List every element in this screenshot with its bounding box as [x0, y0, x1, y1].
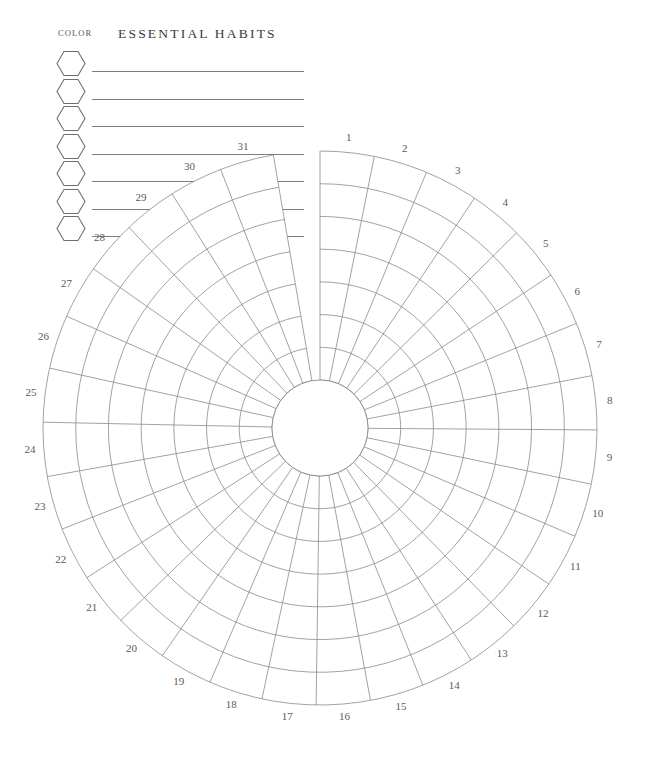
- day-number-label: 19: [173, 675, 185, 687]
- habit-tracker-page: COLOR ESSENTIAL HABITS 12345678910111213…: [0, 0, 646, 774]
- day-number-label: 28: [94, 231, 106, 243]
- chart-cell[interactable]: [76, 423, 112, 471]
- day-number-label: 14: [449, 679, 461, 691]
- chart-cell[interactable]: [76, 375, 114, 423]
- day-number-label: 8: [607, 394, 613, 406]
- day-number-label: 3: [455, 164, 461, 176]
- day-number-label: 9: [607, 451, 613, 463]
- day-number-label: 16: [339, 710, 351, 722]
- chart-cell[interactable]: [317, 604, 359, 640]
- radial-chart-svg: 1234567891011121314151617181920212223242…: [0, 0, 646, 774]
- chart-cell[interactable]: [560, 376, 597, 430]
- chart-cell[interactable]: [141, 424, 176, 459]
- chart-cell[interactable]: [317, 636, 365, 672]
- day-number-label: 30: [184, 160, 196, 172]
- day-number-label: 29: [136, 191, 148, 203]
- day-number-label: 31: [237, 140, 248, 152]
- day-number-label: 25: [26, 386, 38, 398]
- chart-cell[interactable]: [262, 667, 317, 705]
- chart-cell[interactable]: [528, 382, 565, 430]
- day-number-label: 15: [395, 700, 407, 712]
- day-number-label: 24: [24, 443, 36, 455]
- day-number-label: 21: [86, 601, 97, 613]
- day-number-label: 6: [575, 285, 581, 297]
- day-number-label: 20: [126, 642, 138, 654]
- day-number-label: 17: [282, 710, 294, 722]
- day-number-label: 12: [538, 607, 549, 619]
- day-number-label: 11: [570, 560, 581, 572]
- day-number-label: 7: [596, 338, 602, 350]
- day-number-label: 13: [497, 647, 509, 659]
- day-number-label: 1: [346, 131, 352, 143]
- chart-cell[interactable]: [316, 668, 370, 705]
- chart-cell[interactable]: [527, 429, 564, 477]
- chart-cell[interactable]: [108, 382, 145, 424]
- chart-cell[interactable]: [496, 388, 532, 429]
- day-number-label: 22: [55, 553, 66, 565]
- chart-cell[interactable]: [276, 603, 318, 640]
- day-number-label: 26: [38, 330, 50, 342]
- day-number-label: 4: [503, 196, 509, 208]
- day-number-label: 23: [34, 500, 46, 512]
- chart-cell[interactable]: [269, 635, 317, 672]
- chart-cell[interactable]: [320, 216, 361, 252]
- chart-cell[interactable]: [559, 430, 597, 484]
- chart-cell[interactable]: [43, 422, 80, 476]
- day-number-label: 18: [226, 698, 238, 710]
- day-number-label: 2: [402, 142, 408, 154]
- chart-cell[interactable]: [495, 429, 531, 471]
- day-number-label: 27: [61, 277, 73, 289]
- day-number-label: 5: [543, 237, 549, 249]
- day-number-label: 10: [592, 507, 604, 519]
- chart-cell[interactable]: [320, 184, 368, 221]
- chart-cell[interactable]: [320, 151, 374, 188]
- radial-habit-chart[interactable]: 1234567891011121314151617181920212223242…: [0, 0, 646, 774]
- chart-center-hub: [272, 380, 368, 476]
- chart-cell[interactable]: [108, 424, 143, 466]
